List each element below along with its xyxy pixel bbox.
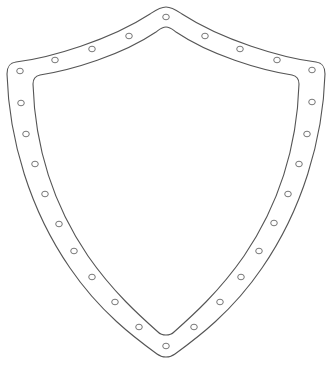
rivet-group (17, 14, 316, 349)
rivet-icon (202, 33, 209, 39)
shield-canvas (0, 0, 328, 366)
rivet-icon (271, 220, 278, 226)
shield-icon (0, 0, 328, 366)
rivet-icon (89, 46, 96, 52)
rivet-icon (285, 191, 292, 197)
rivet-icon (304, 131, 311, 137)
rivet-icon (42, 191, 49, 197)
rivet-icon (126, 33, 133, 39)
rivet-icon (238, 274, 245, 280)
rivet-icon (274, 57, 281, 63)
shield-inner-outline (33, 27, 299, 335)
rivet-icon (217, 299, 224, 305)
rivet-icon (191, 324, 198, 330)
rivet-icon (89, 274, 96, 280)
rivet-icon (32, 161, 39, 167)
rivet-icon (52, 57, 59, 63)
rivet-icon (17, 68, 24, 74)
rivet-icon (163, 14, 170, 20)
rivet-icon (136, 324, 143, 330)
rivet-icon (18, 100, 25, 106)
rivet-icon (256, 248, 263, 254)
rivet-icon (56, 221, 63, 227)
rivet-icon (71, 248, 78, 254)
rivet-icon (309, 99, 316, 105)
rivet-icon (112, 299, 119, 305)
rivet-icon (23, 131, 30, 137)
shield-outer-outline (7, 7, 325, 357)
rivet-icon (163, 343, 170, 349)
rivet-icon (237, 46, 244, 52)
rivet-icon (296, 161, 303, 167)
rivet-icon (309, 67, 316, 73)
